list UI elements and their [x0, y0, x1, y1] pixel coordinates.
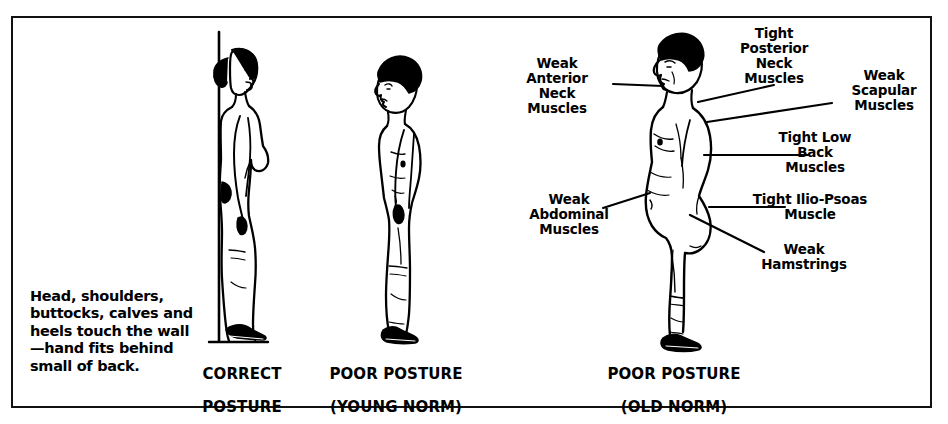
caption-poor-old-line2: (OLD NORM)	[621, 398, 727, 416]
caption-correct-line2: POSTURE	[202, 398, 281, 416]
caption-poor-young-line2: (YOUNG NORM)	[330, 398, 462, 416]
posture-diagram-page: Head, shoulders, buttocks, calves and he…	[0, 0, 948, 424]
wall-test-description: Head, shoulders, buttocks, calves and he…	[30, 288, 200, 375]
caption-correct-posture: CORRECT POSTURE	[182, 350, 302, 415]
annotation-tight-ilio-psoas-muscle: Tight Ilio-Psoas Muscle	[736, 192, 884, 222]
annotation-weak-scapular-muscles: Weak Scapular Muscles	[832, 68, 936, 113]
annotation-tight-posterior-neck-muscles: Tight Posterior Neck Muscles	[716, 26, 832, 86]
annotation-weak-abdominal-muscles: Weak Abdominal Muscles	[508, 192, 630, 237]
caption-correct-line1: CORRECT	[202, 365, 281, 383]
annotation-tight-low-back-muscles: Tight Low Back Muscles	[760, 130, 870, 175]
caption-poor-posture-old: POOR POSTURE (OLD NORM)	[586, 350, 762, 415]
annotation-weak-anterior-neck-muscles: Weak Anterior Neck Muscles	[501, 56, 613, 116]
caption-poor-young-line1: POOR POSTURE	[329, 365, 462, 383]
caption-poor-old-line1: POOR POSTURE	[607, 365, 740, 383]
annotation-weak-hamstrings: Weak Hamstrings	[744, 242, 864, 272]
caption-poor-posture-young: POOR POSTURE (YOUNG NORM)	[318, 350, 474, 415]
